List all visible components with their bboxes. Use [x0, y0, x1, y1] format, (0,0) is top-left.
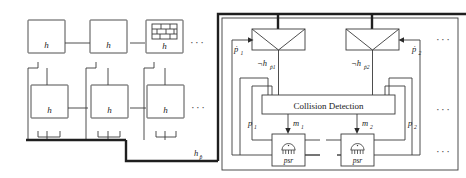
label-m-1-sub: 1: [301, 124, 304, 130]
node-h-top-1[interactable]: h: [28, 20, 65, 53]
wire-skip-mid-elbow: [86, 62, 96, 68]
funnel-1[interactable]: [252, 29, 305, 50]
label-neg-h-1-sub: ṗ1: [269, 64, 276, 70]
label-m-1-main: m: [293, 118, 299, 128]
psr-box-2-label: psr: [352, 156, 363, 165]
label-pdot-1: ṗ 1: [233, 44, 244, 56]
label-m-2-main: m: [362, 118, 368, 128]
wire-skip-left-elbow: [28, 62, 38, 68]
label-p-1-sub: 1: [254, 124, 257, 130]
bus-label: h: [194, 148, 198, 158]
label-m-2: m 2: [362, 118, 373, 130]
right-ellipsis-top: ···: [436, 33, 451, 45]
node-h-top-3[interactable]: h: [146, 20, 183, 53]
right-ellipsis-bottom: ···: [436, 145, 451, 157]
psr-box-1-label: psr: [283, 156, 294, 165]
label-pdot-1-main: ṗ: [233, 44, 238, 54]
label-neg-h-2: ¬h ṗ2: [351, 58, 370, 70]
label-pdot-2-sub: 2: [419, 50, 422, 56]
left-panel-group: h h h ···: [26, 14, 466, 161]
node-h-bot-3-label: h: [163, 105, 168, 115]
node-h-top-2-label: h: [106, 40, 111, 50]
funnel-1-rect: [252, 29, 305, 50]
node-h-bot-1[interactable]: h: [31, 85, 68, 118]
sonar-dot-2: [357, 145, 358, 146]
label-m-2-sub: 2: [370, 124, 373, 130]
funnel-2-rect: [346, 29, 399, 50]
node-h-bot-1-label: h: [47, 105, 52, 115]
bus-elbow-to-right: [126, 140, 218, 161]
left-ellipsis-top: ···: [190, 36, 205, 48]
right-panel-group: ṗ 1 ¬h ṗ1 p 1 m: [222, 14, 458, 170]
wire-p2-loop-outer: [389, 78, 412, 155]
wire-return-1: [38, 131, 60, 137]
label-p-2: p 2: [407, 118, 417, 130]
collision-detection-box[interactable]: Collision Detection: [262, 95, 395, 114]
figure-root: h h h ···: [0, 0, 466, 178]
collision-detection-label: Collision Detection: [293, 101, 364, 111]
node-h-top-3-label: h: [162, 41, 167, 51]
label-pdot-1-sub: 1: [241, 50, 244, 56]
psr-box-2[interactable]: psr: [341, 134, 374, 166]
label-neg-h-2-main: ¬h: [351, 58, 361, 68]
node-h-bot-2-label: h: [107, 105, 112, 115]
label-p-2-sub: 2: [414, 124, 417, 130]
label-neg-h-1: ¬h ṗ1: [257, 58, 276, 70]
bus-label-sub: p̂: [199, 154, 203, 160]
bus-label-group: h p̂: [194, 148, 203, 160]
wire-return-2: [98, 131, 120, 137]
label-neg-h-1-main: ¬h: [257, 58, 267, 68]
wire-p1-loop-outer: [240, 78, 268, 155]
psr-box-1[interactable]: psr: [272, 134, 305, 166]
label-m-1: m 1: [293, 118, 304, 130]
left-ellipsis-bottom: ···: [191, 101, 206, 113]
label-p-2-main: p: [407, 118, 412, 128]
label-p-1: p 1: [247, 118, 257, 130]
wire-return-3: [156, 131, 176, 137]
right-ellipsis-mid: ···: [436, 103, 451, 115]
node-h-top-2[interactable]: h: [90, 20, 127, 53]
wire-skip-right-elbow: [144, 62, 154, 68]
node-h-bot-2[interactable]: h: [91, 85, 128, 118]
funnel-2[interactable]: [346, 29, 399, 50]
arrowhead-m1: [285, 128, 290, 134]
diagram-canvas: h h h ···: [0, 0, 466, 178]
arrowhead-m2: [354, 128, 359, 134]
node-h-top-1-label: h: [44, 40, 49, 50]
label-neg-h-2-sub: ṗ2: [363, 64, 370, 70]
label-pdot-2-main: ṗ: [411, 44, 416, 54]
sonar-dot-1: [288, 145, 289, 146]
label-p-1-main: p: [247, 118, 252, 128]
node-h-bot-3[interactable]: h: [147, 85, 184, 118]
